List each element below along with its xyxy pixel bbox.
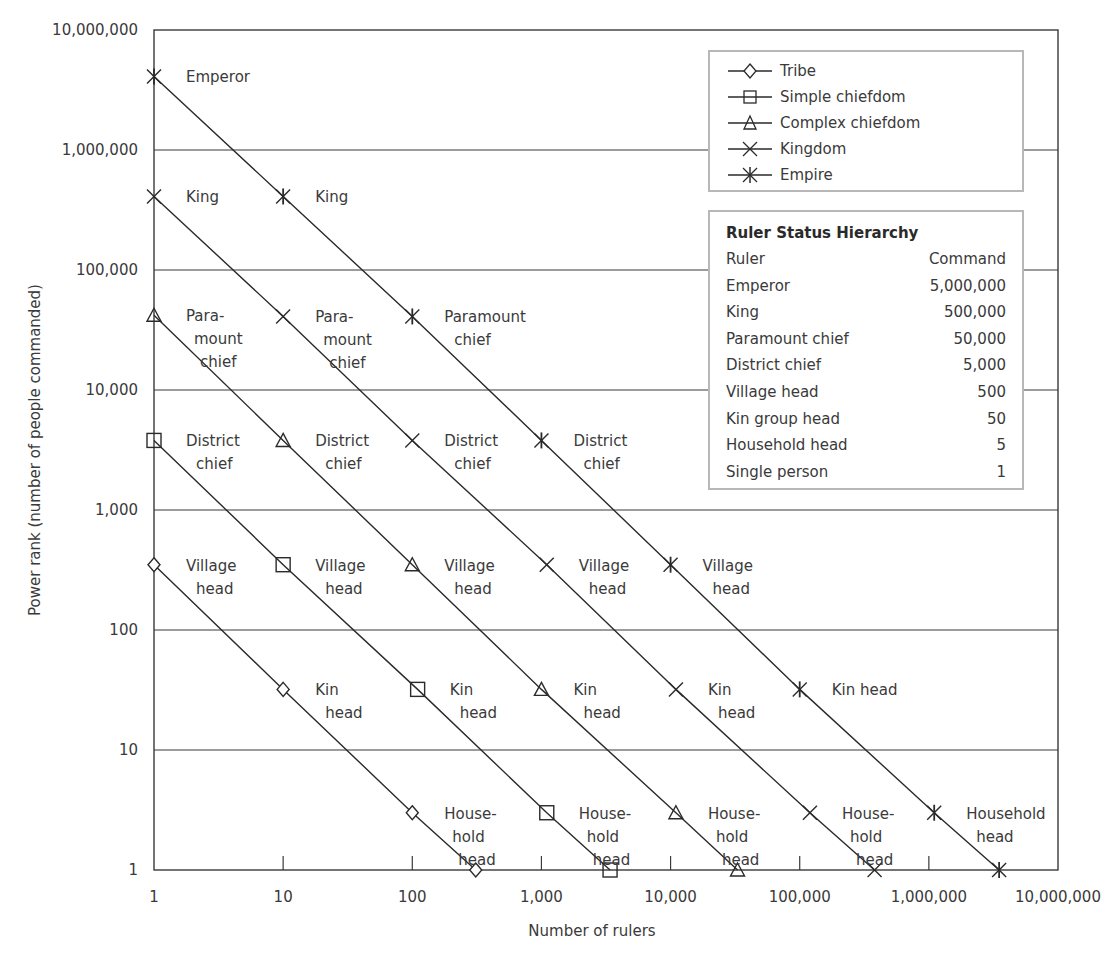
series-line xyxy=(154,315,738,870)
table-row: King500,000 xyxy=(726,299,1006,326)
command-cell: 5 xyxy=(996,432,1006,459)
table-row: Paramount chief50,000 xyxy=(726,326,1006,353)
legend-item-kingdom: Kingdom xyxy=(726,136,846,162)
point-label: hold xyxy=(452,828,484,846)
x-tick-label: 100 xyxy=(398,888,427,906)
x-tick-label: 100,000 xyxy=(769,888,831,906)
command-cell: 50,000 xyxy=(954,326,1007,353)
x-tick-label: 10,000 xyxy=(644,888,697,906)
point-label: head xyxy=(454,580,491,598)
point-label: mount xyxy=(194,330,243,348)
series-complex-chiefdom xyxy=(147,308,745,876)
y-tick-label: 1,000,000 xyxy=(62,141,138,159)
command-cell: 500,000 xyxy=(944,299,1006,326)
point-label: Household xyxy=(966,805,1045,823)
y-axis-title: Power rank (number of people commanded) xyxy=(26,284,44,616)
point-label: chief xyxy=(454,331,491,349)
point-label: head xyxy=(325,580,362,598)
legend-item-complex-chiefdom: Complex chiefdom xyxy=(726,110,920,136)
point-label: King xyxy=(315,188,348,206)
table-row: District chief5,000 xyxy=(726,352,1006,379)
point-label: House- xyxy=(842,805,894,823)
point-label: head xyxy=(718,704,755,722)
point-label: head xyxy=(856,851,893,869)
point-label: Village xyxy=(703,557,753,575)
series-line xyxy=(154,565,476,870)
point-label: head xyxy=(196,580,233,598)
table-row: Kin group head50 xyxy=(726,406,1006,433)
point-label: Village xyxy=(186,557,236,575)
point-label: head xyxy=(976,828,1013,846)
table-row: Single person1 xyxy=(726,459,1006,486)
command-cell: 1 xyxy=(996,459,1006,486)
command-cell: 500 xyxy=(977,379,1006,406)
point-label: Kin xyxy=(450,681,474,699)
triangle-icon xyxy=(726,114,774,132)
ruler-cell: Household head xyxy=(726,432,848,459)
ruler-cell: Village head xyxy=(726,379,819,406)
command-cell: 5,000 xyxy=(963,352,1006,379)
point-label: head xyxy=(583,704,620,722)
legend-label: Empire xyxy=(780,166,833,184)
point-label: chief xyxy=(325,455,362,473)
table-row: Household head5 xyxy=(726,432,1006,459)
point-label: hold xyxy=(587,828,619,846)
legend-label: Kingdom xyxy=(780,140,846,158)
table-title: Ruler Status Hierarchy xyxy=(726,220,1006,246)
ruler-cell: Paramount chief xyxy=(726,326,849,353)
point-label: House- xyxy=(579,805,631,823)
command-cell: 5,000,000 xyxy=(930,273,1006,300)
point-label: head xyxy=(325,704,362,722)
legend-label: Simple chiefdom xyxy=(780,88,906,106)
point-label: Para- xyxy=(315,308,353,326)
legend-item-tribe: Tribe xyxy=(726,58,816,84)
y-tick-label: 1,000 xyxy=(95,501,138,519)
point-label: mount xyxy=(323,331,372,349)
legend-label: Tribe xyxy=(780,62,816,80)
legend-label: Complex chiefdom xyxy=(780,114,920,132)
point-label: head xyxy=(460,704,497,722)
point-label: head xyxy=(722,851,759,869)
point-label: Emperor xyxy=(186,68,251,86)
point-label: chief xyxy=(329,354,366,372)
point-label: hold xyxy=(850,828,882,846)
ruler-cell: Single person xyxy=(726,459,828,486)
point-label: head xyxy=(713,580,750,598)
legend-item-simple-chiefdom: Simple chiefdom xyxy=(726,84,906,110)
series-simple-chiefdom xyxy=(147,433,617,877)
x-tick-label: 1 xyxy=(149,888,159,906)
command-cell: 50 xyxy=(987,406,1006,433)
point-label: head xyxy=(458,851,495,869)
legend-item-empire: Empire xyxy=(726,162,833,188)
series-tribe xyxy=(148,558,482,877)
table-row: Village head500 xyxy=(726,379,1006,406)
y-tick-label: 1 xyxy=(128,861,138,879)
x-axis-title: Number of rulers xyxy=(528,922,655,940)
diamond-icon xyxy=(726,62,774,80)
point-label: chief xyxy=(200,353,237,371)
point-label: Para- xyxy=(186,307,224,325)
point-label: District xyxy=(573,432,627,450)
point-label: Kin xyxy=(573,681,597,699)
point-label: chief xyxy=(583,455,620,473)
x-tick-label: 10,000,000 xyxy=(1015,888,1101,906)
ruler-cell: Kin group head xyxy=(726,406,840,433)
point-label: Village xyxy=(579,557,629,575)
point-label: District xyxy=(315,432,369,450)
ruler-cell: Emperor xyxy=(726,273,790,300)
y-tick-label: 10,000,000 xyxy=(52,21,138,39)
table-row: Emperor5,000,000 xyxy=(726,273,1006,300)
y-tick-label: 10 xyxy=(119,741,138,759)
header-command: Command xyxy=(929,246,1006,273)
ruler-cell: King xyxy=(726,299,759,326)
x-icon xyxy=(726,140,774,158)
x-tick-label: 1,000 xyxy=(520,888,563,906)
point-label: head xyxy=(593,851,630,869)
point-label: Paramount xyxy=(444,308,526,326)
point-label: House- xyxy=(708,805,760,823)
y-tick-label: 10,000 xyxy=(86,381,139,399)
legend: Tribe Simple chiefdom Complex chiefdom K… xyxy=(708,50,1024,192)
point-label: District xyxy=(444,432,498,450)
point-label: District xyxy=(186,432,240,450)
x-tick-label: 1,000,000 xyxy=(891,888,967,906)
